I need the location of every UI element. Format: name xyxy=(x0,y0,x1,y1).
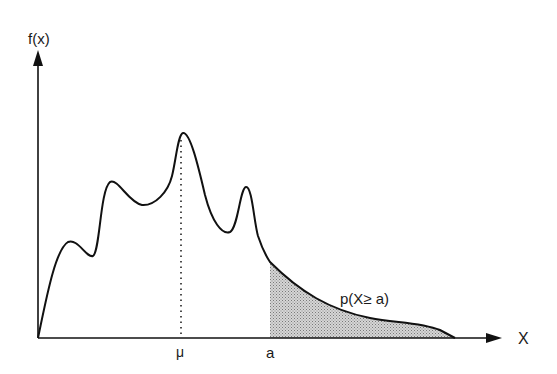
mean-label: μ xyxy=(176,344,184,360)
threshold-label: a xyxy=(266,344,275,361)
probability-density-diagram: f(x) X μ a p(X≥ a) xyxy=(0,0,557,374)
x-axis-label: X xyxy=(518,330,529,347)
x-axis-arrow-icon xyxy=(486,333,502,343)
y-axis-label: f(x) xyxy=(28,30,50,47)
y-axis-arrow-icon xyxy=(33,50,43,66)
tail-probability-label: p(X≥ a) xyxy=(340,290,389,307)
density-curve xyxy=(38,133,455,338)
